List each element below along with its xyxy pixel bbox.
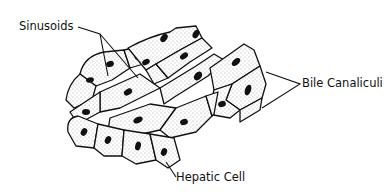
bile-canaliculi-leader: [262, 72, 300, 108]
label-bile-canaliculi: Bile Canaliculi: [302, 78, 383, 90]
label-sinusoids: Sinusoids: [19, 21, 74, 33]
label-hepatic-cell: Hepatic Cell: [176, 172, 245, 184]
